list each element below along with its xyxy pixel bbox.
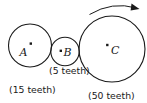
gear-diagram: A B C (5 teeth) (15 teeth) (50 teeth) [0, 0, 147, 103]
gear-a-center-dot [30, 42, 32, 44]
gear-a-group: A [9, 24, 52, 67]
rotation-arc [90, 6, 137, 15]
gear-c-teeth-label: (50 teeth) [88, 90, 135, 101]
gear-c-center-dot [106, 44, 108, 46]
gear-a-teeth-label: (15 teeth) [9, 84, 56, 95]
gear-b-label: B [63, 46, 72, 59]
gear-a-label: A [19, 46, 28, 59]
gear-b-teeth-label: (5 teeth) [49, 65, 90, 76]
gear-c-label: C [111, 44, 120, 57]
clockwise-rotation-arrow-icon [90, 4, 140, 15]
gear-diagram-canvas: A B C (5 teeth) (15 teeth) (50 teeth) [0, 0, 147, 103]
rotation-arrowhead [131, 4, 140, 11]
gear-a-circle [9, 24, 52, 67]
gear-b-group: B [51, 37, 79, 65]
gear-b-center-dot [60, 50, 62, 52]
